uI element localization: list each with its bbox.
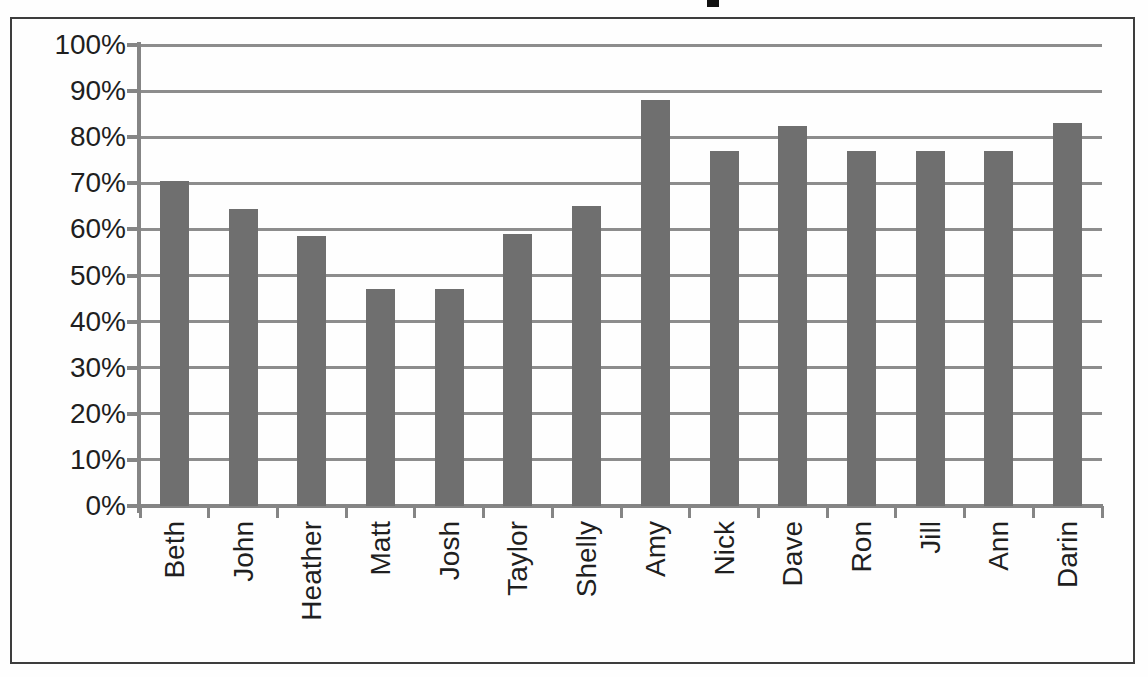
x-axis-tick bbox=[826, 506, 829, 518]
gridline-40% bbox=[140, 320, 1102, 323]
gridline-80% bbox=[140, 136, 1102, 139]
x-axis-label-ron: Ron bbox=[845, 521, 878, 572]
bar-dave bbox=[778, 126, 807, 506]
x-axis-line bbox=[127, 504, 1103, 508]
y-axis-label-60%: 60% bbox=[20, 213, 126, 245]
x-axis-tick bbox=[207, 506, 210, 518]
gridline-90% bbox=[140, 90, 1102, 93]
y-axis-label-90%: 90% bbox=[20, 75, 126, 107]
x-axis-tick bbox=[757, 506, 760, 518]
gridline-60% bbox=[140, 228, 1102, 231]
x-axis-label-john: John bbox=[227, 521, 260, 582]
y-axis-label-20%: 20% bbox=[20, 398, 126, 430]
y-axis-label-30%: 30% bbox=[20, 352, 126, 384]
x-axis-tick bbox=[482, 506, 485, 518]
y-axis-label-50%: 50% bbox=[20, 260, 126, 292]
y-axis-label-70%: 70% bbox=[20, 167, 126, 199]
bar-heather bbox=[297, 236, 326, 506]
y-axis-line bbox=[137, 42, 141, 513]
gridline-20% bbox=[140, 412, 1102, 415]
x-axis-tick bbox=[345, 506, 348, 518]
gridline-10% bbox=[140, 458, 1102, 461]
y-axis-label-100%: 100% bbox=[20, 29, 126, 61]
x-axis-tick bbox=[1032, 506, 1035, 518]
x-axis-label-darin: Darin bbox=[1051, 521, 1084, 588]
bar-john bbox=[229, 209, 258, 506]
x-axis-tick bbox=[894, 506, 897, 518]
x-axis-label-ann: Ann bbox=[982, 521, 1015, 571]
gridline-100% bbox=[140, 44, 1102, 47]
x-axis-tick bbox=[963, 506, 966, 518]
y-axis-label-0%: 0% bbox=[20, 490, 126, 522]
x-axis-tick bbox=[276, 506, 279, 518]
x-axis-tick bbox=[1101, 506, 1104, 518]
gridline-70% bbox=[140, 182, 1102, 185]
x-axis-label-taylor: Taylor bbox=[501, 521, 534, 596]
bar-shelly bbox=[572, 206, 601, 506]
bar-nick bbox=[710, 151, 739, 506]
x-axis-label-beth: Beth bbox=[158, 521, 191, 579]
bar-amy bbox=[641, 100, 670, 506]
bar-josh bbox=[435, 289, 464, 506]
bar-beth bbox=[160, 181, 189, 506]
gridline-30% bbox=[140, 366, 1102, 369]
x-axis-label-dave: Dave bbox=[776, 521, 809, 586]
scanned-chart-page: 0%10%20%30%40%50%60%70%80%90%100%BethJoh… bbox=[0, 0, 1148, 677]
y-axis-label-40%: 40% bbox=[20, 306, 126, 338]
gridline-50% bbox=[140, 274, 1102, 277]
x-axis-tick bbox=[688, 506, 691, 518]
x-axis-label-matt: Matt bbox=[364, 521, 397, 575]
bar-matt bbox=[366, 289, 395, 506]
x-axis-tick bbox=[620, 506, 623, 518]
x-axis-label-amy: Amy bbox=[639, 521, 672, 577]
x-axis-label-jill: Jill bbox=[914, 521, 947, 554]
y-axis-label-80%: 80% bbox=[20, 121, 126, 153]
x-axis-tick bbox=[551, 506, 554, 518]
bar-jill bbox=[916, 151, 945, 506]
x-axis-tick bbox=[139, 506, 142, 518]
cropped-title-descender-fragment bbox=[707, 0, 719, 7]
bar-ron bbox=[847, 151, 876, 506]
bar-darin bbox=[1053, 123, 1082, 506]
x-axis-label-josh: Josh bbox=[433, 521, 466, 580]
x-axis-tick bbox=[413, 506, 416, 518]
x-axis-label-nick: Nick bbox=[708, 521, 741, 575]
x-axis-label-heather: Heather bbox=[295, 521, 328, 621]
bar-taylor bbox=[503, 234, 532, 506]
x-axis-label-shelly: Shelly bbox=[570, 521, 603, 597]
y-axis-label-10%: 10% bbox=[20, 444, 126, 476]
bar-ann bbox=[984, 151, 1013, 506]
